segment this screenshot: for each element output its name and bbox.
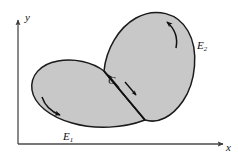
y-axis-label: y [25,12,30,23]
label-E2-base: E [197,39,204,51]
label-E2: E2 [197,40,207,53]
label-E1-subscript: 1 [70,136,74,143]
label-C: C [108,75,115,86]
label-E1: E1 [63,131,73,144]
label-E1-base: E [63,130,70,142]
oriented-region [32,12,195,127]
label-E2-subscript: 2 [204,45,208,52]
x-axis-label: x [226,142,231,153]
math-figure [0,0,238,160]
